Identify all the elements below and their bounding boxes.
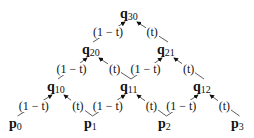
node-q10: q10: [47, 80, 65, 95]
node-q11: q11: [120, 80, 137, 95]
node-p1: p1: [84, 117, 97, 132]
weight-label: (t): [145, 100, 158, 112]
node-p2: p2: [158, 117, 171, 132]
weight-label: (1 − t): [18, 100, 50, 112]
weight-label: (1 − t): [92, 26, 124, 38]
weight-label: (t): [182, 63, 195, 75]
node-q12: q12: [193, 80, 211, 95]
weight-label: (1 − t): [92, 100, 124, 112]
node-q30: q30: [120, 7, 138, 22]
weight-label: (1 − t): [165, 100, 197, 112]
node-q20: q20: [82, 43, 100, 58]
weight-label: (t): [218, 100, 231, 112]
weight-label: (1 − t): [56, 63, 88, 75]
node-q21: q21: [157, 43, 175, 58]
node-p3: p3: [231, 117, 244, 132]
node-p0: p0: [9, 117, 22, 132]
weight-label: (1 − t): [130, 63, 162, 75]
weight-label: (t): [71, 100, 84, 112]
weight-label: (t): [108, 63, 121, 75]
weight-label: (t): [146, 26, 159, 38]
